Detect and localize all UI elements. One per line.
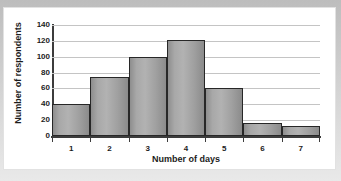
gridline xyxy=(52,136,320,137)
bar xyxy=(167,40,205,136)
bar xyxy=(282,126,320,136)
x-tick-mark xyxy=(167,138,168,142)
x-axis-title: Number of days xyxy=(52,154,320,164)
x-tick-label: 3 xyxy=(145,144,149,153)
chart-card: 020406080100120140 1234567 Number of day… xyxy=(3,7,336,170)
bar-slot xyxy=(129,25,167,136)
bar-slot xyxy=(52,25,90,136)
x-tick-mark xyxy=(90,138,91,142)
bar-series xyxy=(52,25,320,136)
y-tick-label: 140 xyxy=(24,21,50,29)
x-tick-label: 2 xyxy=(107,144,111,153)
y-tick-label: 80 xyxy=(24,69,50,77)
x-tick-mark xyxy=(282,138,283,142)
chart-figure: 020406080100120140 1234567 Number of day… xyxy=(0,0,341,181)
y-tick-label: 40 xyxy=(24,100,50,108)
y-tick-label: 120 xyxy=(24,37,50,45)
x-tick-label: 1 xyxy=(69,144,73,153)
bar xyxy=(90,77,128,136)
bar-slot xyxy=(90,25,128,136)
bar-slot xyxy=(205,25,243,136)
y-tick-label: 60 xyxy=(24,84,50,92)
x-tick-mark xyxy=(129,138,130,142)
x-tick-mark xyxy=(243,138,244,142)
bar-slot xyxy=(167,25,205,136)
bar xyxy=(129,57,167,136)
y-tick-label: 20 xyxy=(24,116,50,124)
x-tick-label: 4 xyxy=(184,144,188,153)
bar-slot xyxy=(243,25,281,136)
x-tick-label: 5 xyxy=(222,144,226,153)
x-tick-mark xyxy=(319,138,320,142)
bar xyxy=(52,104,90,136)
y-tick-label: 0 xyxy=(24,132,50,140)
plot-area xyxy=(52,25,320,136)
bar xyxy=(205,88,243,136)
x-tick-label: 7 xyxy=(299,144,303,153)
x-tick-label: 6 xyxy=(260,144,264,153)
bar xyxy=(243,123,281,136)
x-tick-mark xyxy=(205,138,206,142)
y-axis-title: Number of respondents xyxy=(13,18,23,128)
x-tick-mark xyxy=(52,138,53,142)
y-tick-label: 100 xyxy=(24,53,50,61)
bar-slot xyxy=(282,25,320,136)
